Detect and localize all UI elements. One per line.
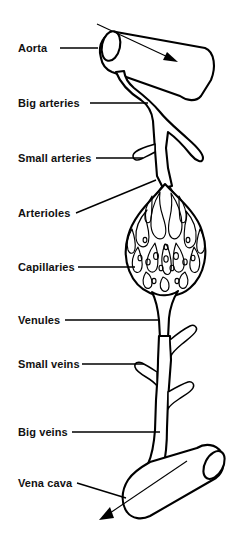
label-small-veins: Small veins xyxy=(18,358,80,370)
label-group-aorta: Aorta xyxy=(18,42,98,54)
venule-stem xyxy=(152,291,178,338)
leader-line-vena-cava xyxy=(77,483,126,498)
blood-vessel-diagram: Aorta Big arteries Small arteries Arteri… xyxy=(0,0,239,537)
label-aorta: Aorta xyxy=(18,42,48,54)
label-group-big-veins: Big veins xyxy=(18,426,160,438)
label-group-arterioles: Arterioles xyxy=(18,180,156,219)
label-group-small-veins: Small veins xyxy=(18,358,144,370)
small-vein xyxy=(135,362,157,386)
vena-cava-tube xyxy=(123,445,229,518)
label-capillaries: Capillaries xyxy=(18,261,75,273)
label-big-veins: Big veins xyxy=(18,426,68,438)
label-big-arteries: Big arteries xyxy=(18,97,80,109)
label-group-big-arteries: Big arteries xyxy=(18,97,148,109)
label-venules: Venules xyxy=(18,314,60,326)
aorta-tube xyxy=(99,29,214,100)
big-vein-trunk xyxy=(148,325,197,468)
label-small-arteries: Small arteries xyxy=(18,152,92,164)
label-group-vena-cava: Vena cava xyxy=(18,477,126,498)
label-arterioles: Arterioles xyxy=(18,207,70,219)
capillary-bed xyxy=(126,184,206,296)
label-vena-cava: Vena cava xyxy=(18,477,73,489)
label-group-small-arteries: Small arteries xyxy=(18,152,143,164)
label-group-capillaries: Capillaries xyxy=(18,261,135,273)
diagram-canvas: Aorta Big arteries Small arteries Arteri… xyxy=(0,0,239,537)
label-group-venules: Venules xyxy=(18,314,158,326)
